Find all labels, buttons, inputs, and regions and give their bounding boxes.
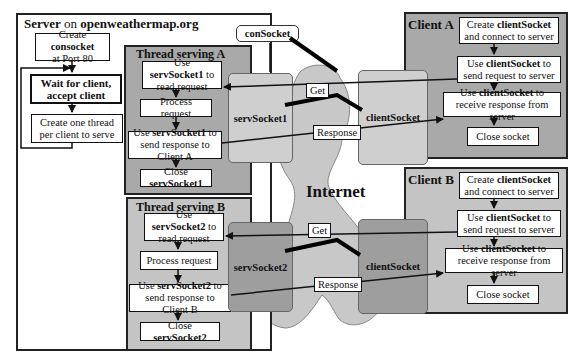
response-label-a: Response <box>313 125 361 140</box>
get-label-b: Get <box>308 223 331 238</box>
get-label-a: Get <box>306 83 329 98</box>
response-label-b: Response <box>314 277 362 292</box>
connections-layer <box>0 0 572 363</box>
